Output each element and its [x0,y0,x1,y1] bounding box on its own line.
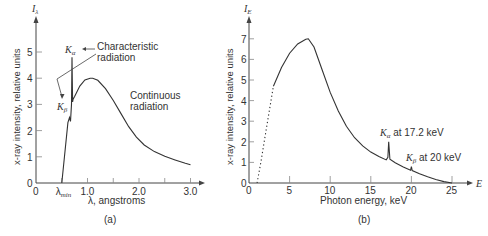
y-axis-symbol-b: IE [243,3,252,16]
x-tick-label-b: 20 [405,185,417,196]
x-axis-label-b: Photon energy, keV [320,195,407,206]
x-tick-label-b: 25 [446,185,458,196]
y-tick-label-a: 4 [27,73,33,84]
characteristic-label-line2: radiation [97,52,135,63]
y-axis-arrow-b [247,16,252,23]
y-tick-label-a: 3 [27,99,33,110]
y-tick-label-b: 1 [241,157,247,168]
k-alpha-label-a: Kα [64,44,76,57]
x-axis-arrow-b [467,181,473,186]
x-axis-symbol-b: E [475,178,482,189]
characteristic-label-line1: Characteristic [97,41,158,52]
x-tick-label-a: λmin [56,186,72,199]
panel-b: 012345670510152025 IE E x-ray intensity,… [224,3,482,225]
x-tick-label-b: 0 [246,185,252,196]
y-tick-label-b: 5 [241,75,247,86]
y-tick-label-b: 2 [241,137,247,148]
k-alpha-annotation-b: Kα at 17.2 keV [379,127,444,140]
x-axis-arrow-a [199,181,205,186]
k-beta-annotation-b: Kβ at 20 keV [405,152,462,165]
y-axis-arrow-a [34,16,39,23]
continuous-label-line1: Continuous [130,90,181,101]
panel-label-b: (b) [358,214,370,225]
y-axis-symbol-a: Iλ [31,3,38,16]
continuous-label-line2: radiation [130,101,168,112]
panel-label-a: (a) [104,214,116,225]
k-beta-label-a: Kβ [56,101,68,114]
y-tick-label-a: 5 [27,47,33,58]
extrapolated-curve-b [257,86,273,183]
y-tick-label-b: 4 [241,96,247,107]
y-tick-label-b: 6 [241,54,247,65]
y-tick-label-a: 2 [27,126,33,137]
x-axis-label-a: λ, angstroms [88,195,145,206]
y-axis-label-a: x-ray intensity, relative units [11,48,22,165]
y-axis-label-b: x-ray intensity, relative units [224,48,235,165]
panel-a: 0123450λmin1.02.03.0 Iλ x-ray intensity,… [11,3,205,225]
x-tick-label-b: 5 [287,185,293,196]
annotation-arrows-a [57,47,96,99]
figure: 0123450λmin1.02.03.0 Iλ x-ray intensity,… [0,0,488,236]
spectrum-curve-a [62,57,191,183]
y-tick-label-b: 3 [241,116,247,127]
y-tick-label-b: 7 [241,34,247,45]
y-tick-label-a: 1 [27,152,33,163]
x-tick-label-a: 3.0 [184,186,198,197]
x-tick-label-a: 0 [33,186,39,197]
